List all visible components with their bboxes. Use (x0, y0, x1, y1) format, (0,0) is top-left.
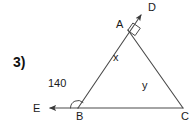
vertex-label-a: A (116, 19, 123, 30)
vertex-label-c: C (181, 111, 189, 122)
ray-bd (78, 15, 141, 108)
angle-label-x: x (113, 52, 119, 63)
geometry-figure (0, 0, 196, 127)
angle-value-140: 140 (48, 78, 66, 89)
vertex-label-d: D (148, 2, 156, 13)
angle-label-y: y (142, 80, 148, 91)
diagram-page: 3) A B C D E x y 140 (0, 0, 196, 127)
side-ac (128, 30, 183, 108)
vertex-label-b: B (76, 111, 83, 122)
question-number: 3) (13, 55, 25, 69)
vertex-label-e: E (33, 103, 40, 114)
